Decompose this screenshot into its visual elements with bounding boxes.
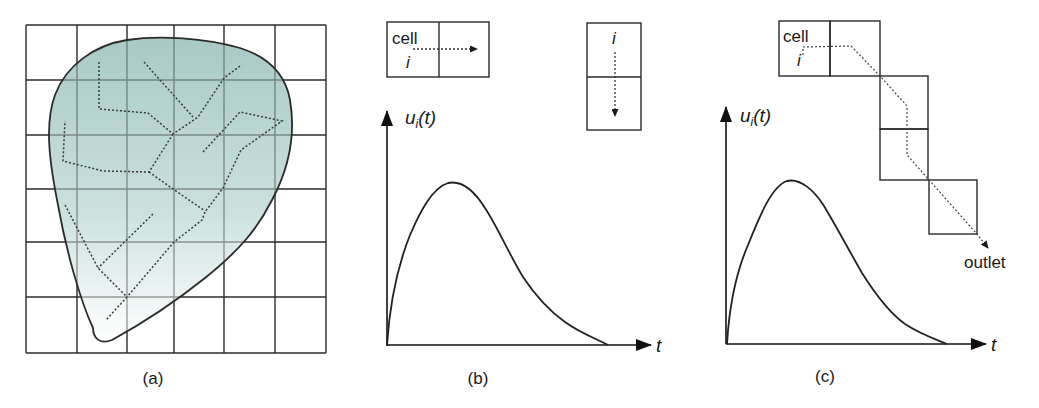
caption-b: (b) (468, 369, 489, 388)
cell-label: cell (783, 27, 809, 46)
vertical-cell-index-label: i (612, 29, 617, 48)
x-axis-label: t (656, 335, 662, 356)
panel-b: cell i i ui(t) t (b) (387, 22, 662, 388)
unit-hydrograph-curve (727, 181, 947, 344)
x-axis-label: t (991, 334, 997, 355)
y-axis-label: ui(t) (405, 107, 436, 131)
y-axis-label: ui(t) (740, 105, 771, 129)
panel-c: cell i outlet ui(t) t (c) (726, 21, 1006, 386)
cell-index-label: i (797, 51, 802, 70)
panel-a: (a) (26, 25, 326, 388)
cell-path-grid (779, 21, 977, 234)
figure-canvas: (a) cell i i ui(t) t (b) (0, 0, 1039, 408)
outlet-label: outlet (964, 253, 1006, 272)
unit-hydrograph-curve (387, 183, 608, 345)
caption-c: (c) (815, 367, 835, 386)
cell-label: cell (392, 29, 418, 48)
cell-index-label: i (406, 53, 411, 72)
caption-a: (a) (143, 369, 164, 388)
